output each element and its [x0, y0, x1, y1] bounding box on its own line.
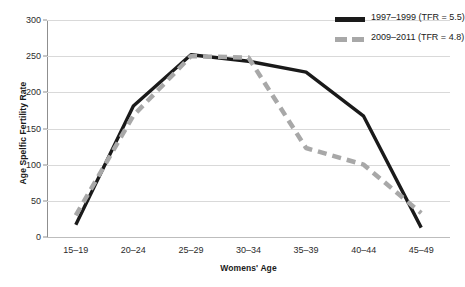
legend-swatch-0: [335, 11, 365, 22]
gridline-0: [47, 237, 450, 238]
legend-label-0: 1997–1999 (TFR = 5.5): [371, 12, 465, 22]
y-tick-label-0: 0: [36, 232, 41, 242]
y-tick-label-50: 50: [31, 196, 41, 206]
x-tick-label-1: 20–24: [121, 245, 146, 255]
x-tick-label-3: 30–34: [236, 245, 261, 255]
x-tick-label-6: 45–49: [409, 245, 434, 255]
legend-swatch-1: [335, 31, 365, 42]
y-tick-label-250: 250: [26, 51, 41, 61]
y-tick-label-100: 100: [26, 160, 41, 170]
x-tick-label-0: 15–19: [63, 245, 88, 255]
legend-label-1: 2009–2011 (TFR = 4.8): [371, 32, 464, 42]
x-tick-label-5: 40–44: [351, 245, 376, 255]
series-lines: [47, 20, 450, 237]
legend-item-0[interactable]: 1997–1999 (TFR = 5.5): [335, 11, 465, 22]
legend-item-1[interactable]: 2009–2011 (TFR = 4.8): [335, 31, 465, 42]
series-line-1: [76, 56, 421, 215]
series-line-0: [76, 55, 421, 228]
x-axis-title: Womens' Age: [47, 263, 450, 273]
y-tick-label-150: 150: [26, 124, 41, 134]
y-tick-label-300: 300: [26, 15, 41, 25]
chart-legend: 1997–1999 (TFR = 5.5)2009–2011 (TFR = 4.…: [335, 11, 465, 42]
x-tick-label-4: 35–39: [294, 245, 319, 255]
plot-area: 05010015020025030015–1920–2425–2930–3435…: [47, 20, 450, 237]
x-tick-label-2: 25–29: [178, 245, 203, 255]
y-tick-label-200: 200: [26, 87, 41, 97]
